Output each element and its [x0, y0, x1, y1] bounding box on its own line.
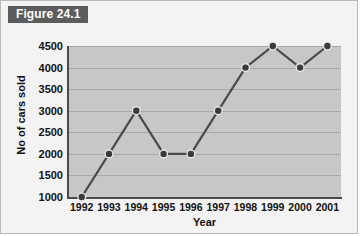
series-plot	[1, 1, 359, 235]
data-point	[270, 43, 276, 49]
data-point	[215, 108, 221, 114]
data-point	[133, 108, 139, 114]
data-point	[188, 151, 194, 157]
data-point	[79, 194, 85, 200]
x-axis-title: Year	[68, 216, 341, 228]
data-point	[324, 43, 330, 49]
y-axis-title: No of cars sold	[15, 60, 27, 170]
figure-frame: Figure 24.1 4500400035003000250020001500…	[0, 0, 358, 234]
data-point	[106, 151, 112, 157]
data-point	[297, 64, 303, 70]
series-markers	[77, 41, 332, 201]
data-point	[160, 151, 166, 157]
line-chart: 45004000350030002500200015001000 1992199…	[1, 1, 359, 235]
series-line	[82, 46, 328, 197]
data-point	[242, 64, 248, 70]
